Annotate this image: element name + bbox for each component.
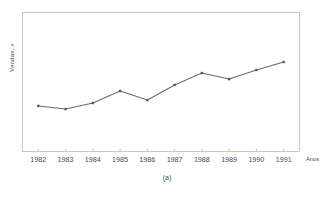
- data-point: [173, 84, 175, 86]
- figure-caption: (a): [0, 174, 334, 181]
- data-point: [255, 69, 257, 71]
- series-markers-vendas: [37, 61, 285, 110]
- y-axis-title-variable: x: [8, 43, 15, 46]
- data-point: [119, 90, 121, 92]
- x-axis-tick-marks: [38, 149, 283, 153]
- data-point: [37, 105, 39, 107]
- chart-data-layer: [22, 12, 300, 152]
- data-point: [146, 99, 148, 101]
- data-point: [92, 102, 94, 104]
- figure-line-chart: Vendas, x 198219831984198519861987198819…: [0, 0, 334, 197]
- x-axis-tick-labels: 1982198319841985198619871988198919901991: [22, 155, 300, 167]
- data-point: [64, 108, 66, 110]
- data-point: [282, 61, 284, 63]
- series-line-vendas: [38, 62, 283, 109]
- data-point: [228, 78, 230, 80]
- x-axis-title: Anos: [306, 156, 319, 162]
- x-axis-tick-label: 1991: [267, 155, 301, 164]
- data-point: [201, 72, 203, 74]
- y-axis-title-main: Vendas,: [8, 47, 15, 72]
- y-axis-title: Vendas, x: [8, 12, 22, 72]
